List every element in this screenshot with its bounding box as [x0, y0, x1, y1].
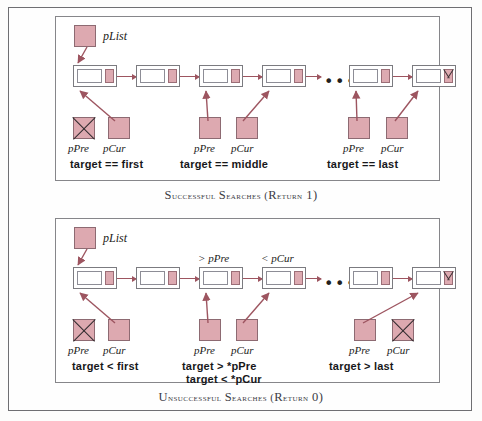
cap-num: 1 — [303, 188, 313, 202]
node-4-top-label: < pCur — [261, 252, 294, 264]
node-1-link — [105, 69, 114, 83]
ucap-w1-first: U — [159, 390, 168, 404]
link-arrow-4-b — [306, 278, 321, 279]
ucase1-ppre-box-null — [73, 319, 95, 341]
node-4-data — [266, 69, 291, 83]
node-4-b-link — [294, 271, 303, 285]
ucase2-caption: target > *pPre — [182, 360, 257, 372]
ucase3-pcur-label: pCur — [387, 344, 410, 356]
node-3 — [199, 65, 243, 87]
ucase1-caption: target < first — [72, 360, 139, 372]
ucase3-ppre-label: pPre — [349, 344, 370, 356]
cap-w3-first: R — [268, 188, 277, 202]
ucap-w1-rest: NSUCCESSFUL — [168, 392, 222, 403]
node-6-b — [412, 267, 456, 289]
node-5-b — [349, 267, 393, 289]
link-arrow-2-b — [180, 278, 199, 279]
node-1-b-link — [105, 271, 114, 285]
link-arrow-2 — [180, 76, 199, 77]
cap-w2-rest: EARCHES — [226, 190, 261, 201]
node-1-data — [77, 69, 102, 83]
plist-label-2: pList — [103, 231, 127, 246]
case2-pcur-box — [236, 117, 258, 139]
link-arrow-3 — [243, 76, 262, 77]
node-5-b-data — [353, 271, 378, 285]
case2-ppre-label: pPre — [194, 142, 215, 154]
case1-pcur-label: pCur — [103, 142, 126, 154]
ucase1-pcur-label: pCur — [103, 344, 126, 356]
ucase2-caption-line2: target < *pCur — [186, 373, 262, 385]
cap-w2-first: S — [219, 188, 226, 202]
node-6-null-link — [444, 69, 453, 83]
ucap-w2-first: S — [225, 390, 232, 404]
link-arrow-3-b — [243, 278, 262, 279]
ucap-num: 0 — [309, 390, 319, 404]
link-arrow-5-b — [393, 278, 412, 279]
node-2-data — [140, 69, 165, 83]
case1-ppre-box-null — [73, 117, 95, 139]
case1-ppre-label: pPre — [68, 142, 89, 154]
ucase2-ppre-box — [199, 319, 221, 341]
node-2-link — [168, 69, 177, 83]
caption-successful-searches: SUCCESSFUL SEARCHES (RETURN 1) — [0, 188, 482, 203]
plist-pointer-box — [74, 25, 96, 47]
ucase3-caption: target > last — [329, 360, 394, 372]
node-5-data — [353, 69, 378, 83]
node-3-data — [203, 69, 228, 83]
case1-pcur-box — [108, 117, 130, 139]
ucap-w3-rest: ETURN — [283, 392, 309, 403]
plist-pointer-box-2 — [74, 227, 96, 249]
ucap-paren-close: ) — [319, 390, 324, 404]
ucase1-ppre-label: pPre — [68, 344, 89, 356]
ucap-w2-rest: EARCHES — [232, 392, 267, 403]
case2-caption: target == middle — [180, 158, 268, 170]
node-1-b — [73, 267, 117, 289]
case2-pcur-label: pCur — [231, 142, 254, 154]
node-2-b — [136, 267, 180, 289]
case3-pcur-box — [386, 117, 408, 139]
node-5-b-link — [381, 271, 390, 285]
node-3-link — [231, 69, 240, 83]
link-arrow-1 — [117, 76, 136, 77]
case3-caption: target == last — [327, 158, 398, 170]
case3-ppre-label: pPre — [343, 142, 364, 154]
figure-canvas: pList ••• — [0, 0, 482, 421]
case3-pcur-label: pCur — [381, 142, 404, 154]
ucase1-pcur-box — [108, 319, 130, 341]
ucase3-pcur-box-null — [392, 319, 414, 341]
link-arrow-5 — [393, 76, 412, 77]
case3-ppre-box — [348, 117, 370, 139]
link-arrow-4 — [306, 76, 321, 77]
panel-unsuccessful-searches: pList > pPre < pCur ••• — [55, 218, 440, 383]
node-5 — [349, 65, 393, 87]
node-3-top-label: > pPre — [198, 252, 229, 264]
ucase2-ppre-label: pPre — [194, 344, 215, 356]
node-2 — [136, 65, 180, 87]
case1-caption: target == first — [70, 158, 143, 170]
cap-w1-first: S — [165, 188, 172, 202]
node-3-b-link — [231, 271, 240, 285]
node-2-b-link — [168, 271, 177, 285]
ucap-w3-first: R — [274, 390, 283, 404]
ucase2-pcur-box — [236, 319, 258, 341]
node-4-b-data — [266, 271, 291, 285]
plist-label: pList — [103, 29, 127, 44]
node-1 — [73, 65, 117, 87]
panel-successful-searches: pList ••• — [55, 16, 440, 181]
ucase3-ppre-box — [354, 319, 376, 341]
node-3-b-data — [203, 271, 228, 285]
cap-paren-close: ) — [313, 188, 318, 202]
cap-w1-rest: UCCESSFUL — [172, 190, 216, 201]
node-3-b — [199, 267, 243, 289]
caption-unsuccessful-searches: UNSUCCESSFUL SEARCHES (RETURN 0) — [0, 390, 482, 405]
node-1-b-data — [77, 271, 102, 285]
link-arrow-1-b — [117, 278, 136, 279]
cap-w3-rest: ETURN — [277, 190, 303, 201]
node-6 — [412, 65, 456, 87]
node-4-b — [262, 267, 306, 289]
node-4 — [262, 65, 306, 87]
node-5-link — [381, 69, 390, 83]
ucase2-pcur-label: pCur — [231, 344, 254, 356]
node-2-b-data — [140, 271, 165, 285]
node-4-link — [294, 69, 303, 83]
